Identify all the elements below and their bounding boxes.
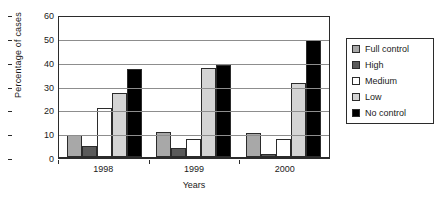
gridline-10: [59, 135, 329, 136]
bar-1998-low[interactable]: [112, 93, 127, 157]
x-tick-mark: [58, 160, 59, 164]
legend-label: Medium: [365, 76, 397, 86]
y-tick-mark: [8, 64, 12, 65]
legend-label: No control: [365, 108, 406, 118]
x-tick-1998: 1998: [58, 160, 149, 176]
bar-1998-full-control[interactable]: [67, 135, 82, 157]
legend-item-no-control[interactable]: No control: [352, 108, 429, 118]
y-tick-mark: [8, 40, 12, 41]
y-tick-mark: [8, 88, 12, 89]
bar-1999-high[interactable]: [171, 148, 186, 157]
x-axis-title: Years: [58, 180, 330, 190]
legend-item-full-control[interactable]: Full control: [352, 44, 429, 54]
bar-1998-medium[interactable]: [97, 108, 112, 157]
legend-item-low[interactable]: Low: [352, 92, 429, 102]
legend-item-medium[interactable]: Medium: [352, 76, 429, 86]
gridline-30: [59, 88, 329, 89]
x-axis-tick-labels: 199819992000: [58, 160, 330, 176]
bar-2000-low[interactable]: [291, 83, 306, 157]
y-tick-0: 0: [12, 154, 58, 164]
gridline-20: [59, 111, 329, 112]
y-tick-mark: [8, 135, 12, 136]
y-tick-mark: [8, 111, 12, 112]
legend-swatch-icon: [352, 93, 360, 101]
bar-1999-low[interactable]: [201, 68, 216, 157]
y-tick-40: 40: [12, 59, 58, 69]
plot-area: [58, 16, 330, 159]
x-tick-1999: 1999: [149, 160, 240, 176]
legend-swatch-icon: [352, 109, 360, 117]
y-tick-20: 20: [12, 106, 58, 116]
x-tick-2000: 2000: [239, 160, 330, 176]
x-axis-line: [59, 157, 329, 158]
x-tick-mark: [239, 160, 240, 164]
y-tick-30: 30: [12, 83, 58, 93]
legend-label: Full control: [365, 44, 409, 54]
legend-swatch-icon: [352, 77, 360, 85]
legend-item-high[interactable]: High: [352, 60, 429, 70]
y-tick-10: 10: [12, 130, 58, 140]
legend-swatch-icon: [352, 61, 360, 69]
y-axis-tick-labels: 0102030405060: [0, 16, 58, 159]
legend-label: High: [365, 60, 384, 70]
y-tick-60: 60: [12, 11, 58, 21]
y-tick-mark: [8, 16, 12, 17]
bar-1998-high[interactable]: [82, 146, 97, 157]
bar-1998-no-control[interactable]: [127, 69, 142, 157]
bar-1999-medium[interactable]: [186, 139, 201, 157]
x-tick-mark: [149, 160, 150, 164]
gridline-50: [59, 40, 329, 41]
bar-2000-no-control[interactable]: [306, 40, 321, 158]
legend-swatch-icon: [352, 45, 360, 53]
gridline-40: [59, 64, 329, 65]
bar-chart-figure: Percentage of cases 0102030405060 199819…: [0, 0, 441, 209]
bar-2000-medium[interactable]: [276, 139, 291, 157]
y-tick-mark: [8, 159, 12, 160]
chart-legend: Full controlHighMediumLowNo control: [346, 38, 434, 124]
y-tick-50: 50: [12, 35, 58, 45]
legend-label: Low: [365, 92, 382, 102]
bar-2000-full-control[interactable]: [246, 133, 261, 157]
